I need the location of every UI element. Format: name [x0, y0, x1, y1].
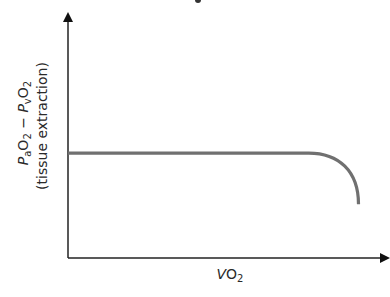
- y-axis-label-line1: PaO2 − PvO2: [15, 61, 33, 185]
- extraction-curve: [68, 153, 359, 204]
- plot-area: [0, 0, 390, 297]
- chart: PaO2 − PvO2 (tissue extraction) VO2: [0, 0, 390, 297]
- x-axis-label: VO2: [200, 266, 260, 284]
- y-axis-label-line2: (tissue extraction): [34, 54, 50, 198]
